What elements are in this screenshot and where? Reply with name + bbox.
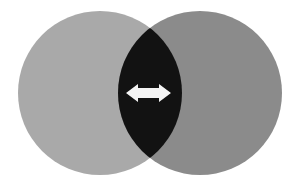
venn-diagram [0,0,299,187]
venn-svg [0,0,299,187]
